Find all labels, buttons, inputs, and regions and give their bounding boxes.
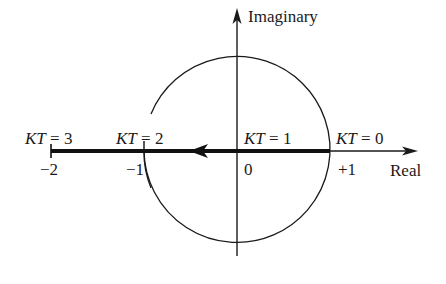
label-kt1: KT = 1 (243, 129, 291, 148)
label-kt2: KT = 2 (115, 129, 163, 148)
tick-label-minus-two: −2 (40, 160, 58, 179)
label-kt3: KT = 3 (24, 129, 72, 148)
tick-label-plus-one: +1 (338, 160, 356, 179)
tick-label-zero: 0 (244, 160, 253, 179)
label-kt0: KT = 0 (335, 129, 383, 148)
imaginary-axis-label: Imaginary (248, 7, 318, 26)
tick-label-minus-one: −1 (126, 160, 144, 179)
root-locus-diagram: KT = 3 KT = 2 KT = 1 KT = 0 −2 −1 0 +1 R… (0, 0, 446, 284)
real-axis-label: Real (390, 161, 421, 180)
